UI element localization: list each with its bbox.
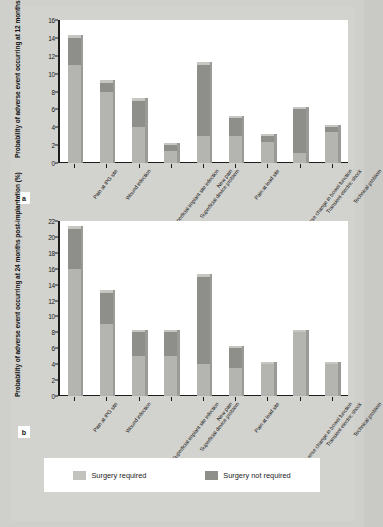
bar xyxy=(164,332,177,396)
bar-top-face xyxy=(293,107,306,110)
legend-swatch-icon xyxy=(205,471,218,480)
y-axis-tick-mark xyxy=(55,332,59,333)
bar xyxy=(261,364,274,396)
y-axis-tick-mark xyxy=(55,163,59,164)
bar-segment-surgery-required xyxy=(229,368,242,396)
y-axis-tick-mark xyxy=(55,55,59,56)
bar-segment-surgery-required xyxy=(132,356,145,396)
x-axis-tick-mark xyxy=(300,164,301,168)
chart-legend: Surgery required Surgery not required xyxy=(44,458,320,492)
bar xyxy=(293,332,306,396)
bar-top-face xyxy=(197,62,210,65)
bar xyxy=(68,38,81,163)
bar-segment-surgery-required xyxy=(68,269,81,396)
bar-side-face xyxy=(306,330,309,396)
y-axis-tick-mark xyxy=(55,252,59,253)
bar-side-face xyxy=(145,330,148,396)
y-axis-tick-mark xyxy=(55,73,59,74)
x-axis-tick-mark xyxy=(74,397,75,401)
y-axis-tick-mark xyxy=(55,348,59,349)
bar-segment-surgery-required xyxy=(100,92,113,163)
y-axis-tick-mark xyxy=(55,364,59,365)
bar xyxy=(325,364,338,396)
bar-segment-surgery-not-required xyxy=(197,65,210,137)
y-axis-label-a: Probability of adverse event occurring a… xyxy=(14,18,22,158)
y-axis-tick-mark xyxy=(55,109,59,110)
y-axis-tick-mark xyxy=(55,316,59,317)
bar xyxy=(229,118,242,163)
y-axis-tick-mark xyxy=(55,127,59,128)
legend-label: Surgery required xyxy=(91,471,146,480)
bar-segment-surgery-required xyxy=(100,324,113,396)
x-axis-tick-mark xyxy=(267,397,268,401)
bar-side-face xyxy=(242,116,245,163)
bar-top-face xyxy=(197,274,210,277)
bar-side-face xyxy=(338,125,341,163)
plot-area-a: 0246810121416 xyxy=(58,20,348,163)
legend-swatch-icon xyxy=(73,471,86,480)
bar-segment-surgery-required xyxy=(164,356,177,396)
bar-segment-surgery-not-required xyxy=(100,83,113,92)
x-axis-tick-label: Adverse change in bowel function xyxy=(301,401,354,466)
bar-top-face xyxy=(132,98,145,101)
chart-panel-b: Probability of adverse event occurring a… xyxy=(10,211,354,446)
legend-item-surgery-not-required: Surgery not required xyxy=(205,471,290,480)
bar xyxy=(197,277,210,396)
bar-top-face xyxy=(229,116,242,119)
bar-side-face xyxy=(177,330,180,396)
x-axis-tick-mark xyxy=(332,164,333,168)
bar-segment-surgery-required xyxy=(325,364,338,396)
bar-segment-surgery-not-required xyxy=(132,332,145,356)
bar-segment-surgery-not-required xyxy=(293,109,306,153)
bar-segment-surgery-required xyxy=(229,136,242,163)
bar xyxy=(100,293,113,396)
bar-top-face xyxy=(100,80,113,83)
bar-side-face xyxy=(210,62,213,163)
y-axis-tick-mark xyxy=(55,37,59,38)
bar-segment-surgery-required xyxy=(293,332,306,396)
bar-side-face xyxy=(306,107,309,163)
bar-segment-surgery-not-required xyxy=(229,118,242,136)
bar-segment-surgery-not-required xyxy=(100,293,113,325)
y-axis-tick-mark xyxy=(55,20,59,21)
x-axis-tick-mark xyxy=(203,164,204,168)
y-axis-line xyxy=(58,20,60,163)
bar-segment-surgery-required xyxy=(197,136,210,163)
x-axis-tick-mark xyxy=(139,397,140,401)
bar-top-face xyxy=(325,125,338,128)
x-axis-tick-mark xyxy=(267,164,268,168)
bar-segment-surgery-required xyxy=(293,153,306,163)
bar-top-face xyxy=(261,362,274,365)
bar-side-face xyxy=(113,290,116,396)
bar xyxy=(132,100,145,163)
bar-top-face xyxy=(68,226,81,229)
bar-top-face xyxy=(325,362,338,365)
bar-side-face xyxy=(81,226,84,396)
x-axis-tick-label: Wound infection xyxy=(125,401,153,434)
x-axis-tick-mark xyxy=(300,397,301,401)
y-axis-tick-mark xyxy=(55,145,59,146)
bar-segment-surgery-not-required xyxy=(68,38,81,65)
bar-segment-surgery-required xyxy=(132,127,145,163)
bar-segment-surgery-required xyxy=(261,142,274,163)
y-axis-tick-mark xyxy=(55,268,59,269)
bar-top-face xyxy=(293,330,306,333)
x-axis-tick-mark xyxy=(171,164,172,168)
bar xyxy=(132,332,145,396)
y-axis-tick-mark xyxy=(55,91,59,92)
x-axis-tick-mark xyxy=(171,397,172,401)
bar-segment-surgery-not-required xyxy=(197,277,210,364)
y-axis-tick-mark xyxy=(55,221,59,222)
y-axis-line xyxy=(58,221,60,396)
bar xyxy=(261,136,274,163)
bar-top-face xyxy=(229,346,242,349)
bar-side-face xyxy=(242,346,245,396)
figure-container: Probability of adverse event occurring a… xyxy=(10,6,354,521)
x-axis-tick-label: Superficial device problem xyxy=(198,401,240,453)
x-axis-tick-mark xyxy=(106,164,107,168)
bar-side-face xyxy=(274,134,277,163)
bar-segment-surgery-not-required xyxy=(164,332,177,356)
x-axis-tick-mark xyxy=(74,164,75,168)
x-axis-tick-mark xyxy=(139,164,140,168)
